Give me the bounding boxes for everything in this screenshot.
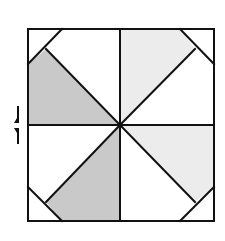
- center-point: [118, 123, 122, 127]
- fold-arrow-icon: [14, 106, 19, 144]
- top-right-shaded-triangle: [120, 29, 195, 125]
- bottom-left-shaded-triangle: [46, 125, 120, 221]
- left-upper-shaded-triangle: [28, 49, 120, 125]
- right-lower-shaded-triangle: [120, 125, 214, 202]
- pinwheel-diagram: [0, 0, 225, 241]
